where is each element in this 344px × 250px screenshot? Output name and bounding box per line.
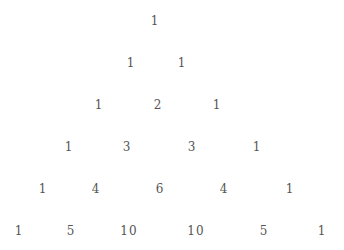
triangle-entry: 1: [253, 140, 262, 154]
pascals-triangle: 11112113311464115101051: [0, 0, 344, 250]
triangle-entry: 5: [260, 224, 269, 238]
triangle-entry: 1: [286, 182, 295, 196]
triangle-entry: 4: [220, 182, 229, 196]
triangle-entry: 10: [187, 224, 204, 238]
triangle-entry: 3: [188, 140, 197, 154]
triangle-entry: 1: [65, 140, 74, 154]
triangle-entry: 3: [123, 140, 132, 154]
triangle-entry: 2: [154, 98, 163, 112]
triangle-entry: 1: [95, 98, 104, 112]
triangle-entry: 1: [178, 56, 187, 70]
triangle-entry: 5: [67, 224, 76, 238]
triangle-entry: 1: [39, 182, 48, 196]
triangle-entry: 10: [120, 224, 137, 238]
triangle-entry: 1: [127, 56, 136, 70]
triangle-entry: 1: [213, 98, 222, 112]
triangle-entry: 1: [151, 14, 160, 28]
triangle-entry: 1: [318, 224, 327, 238]
triangle-entry: 6: [156, 182, 165, 196]
triangle-entry: 1: [15, 224, 24, 238]
triangle-entry: 4: [92, 182, 101, 196]
